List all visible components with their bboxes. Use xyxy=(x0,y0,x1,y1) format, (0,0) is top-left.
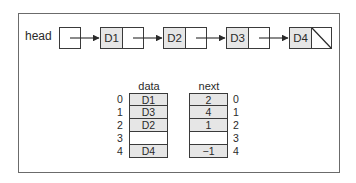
next-cell: 4 xyxy=(189,106,228,119)
row-index-right: 3 xyxy=(231,132,241,144)
next-cell: 1 xyxy=(189,119,228,132)
node-4-null-pointer xyxy=(311,27,332,49)
row-index-left: 4 xyxy=(115,145,125,157)
head-label: head xyxy=(25,29,52,43)
row-index-right: 1 xyxy=(231,106,241,118)
data-cell: D4 xyxy=(129,145,168,158)
node-4-data: D4 xyxy=(289,27,312,49)
next-cell: −1 xyxy=(189,145,228,158)
head-pointer-box xyxy=(59,27,81,49)
next-array: 2 4 1 −1 xyxy=(189,93,228,158)
row-index-right: 2 xyxy=(231,119,241,131)
node-2-data: D2 xyxy=(163,27,186,49)
node-3-next xyxy=(248,27,270,49)
data-array: D1 D3 D2 D4 xyxy=(129,93,168,158)
node-1-next xyxy=(122,27,144,49)
data-cell: D1 xyxy=(129,93,168,106)
node-3-data: D3 xyxy=(226,27,249,49)
next-column-header: next xyxy=(189,80,229,92)
next-cell: 2 xyxy=(189,93,228,106)
data-cell: D2 xyxy=(129,119,168,132)
row-index-left: 3 xyxy=(115,132,125,144)
row-index-right: 0 xyxy=(231,93,241,105)
data-cell: D3 xyxy=(129,106,168,119)
data-column-header: data xyxy=(129,80,169,92)
node-2-next xyxy=(185,27,207,49)
row-index-right: 4 xyxy=(231,145,241,157)
data-cell xyxy=(129,132,168,145)
row-index-left: 1 xyxy=(115,106,125,118)
next-cell xyxy=(189,132,228,145)
row-index-left: 2 xyxy=(115,119,125,131)
node-1-data: D1 xyxy=(100,27,123,49)
row-index-left: 0 xyxy=(115,93,125,105)
